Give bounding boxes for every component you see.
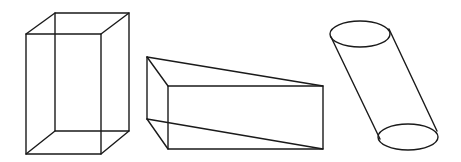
- side-line-right: [389, 29, 437, 131]
- depth-edge-top-left: [26, 13, 55, 34]
- bottom-ellipse: [378, 124, 438, 150]
- front-face: [168, 86, 323, 149]
- slant-edge-top: [147, 57, 323, 86]
- depth-edge-bottom-right: [101, 131, 129, 154]
- side-line-left: [331, 37, 380, 139]
- front-face: [26, 34, 101, 154]
- geometric-solids-figure: [0, 0, 461, 162]
- top-ellipse: [330, 21, 390, 47]
- slant-edge-bottom: [147, 119, 323, 149]
- oblique-cylinder: [330, 21, 438, 150]
- triangular-prism: [147, 57, 323, 149]
- depth-edge-top-right: [101, 13, 129, 34]
- depth-edge-top: [147, 57, 168, 86]
- rectangular-prism: [26, 13, 129, 154]
- back-face: [55, 13, 129, 131]
- depth-edge-bottom: [147, 119, 168, 149]
- diagram-canvas: [0, 0, 461, 162]
- depth-edge-bottom-left: [26, 131, 55, 154]
